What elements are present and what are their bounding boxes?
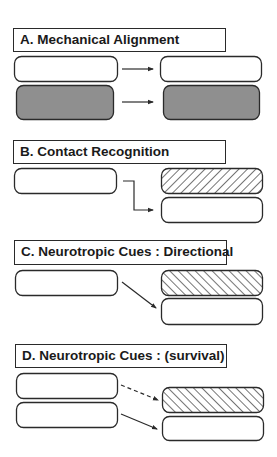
arrow-d-dashed (121, 385, 158, 400)
cell-d-left-top (17, 374, 118, 399)
cell-d-left-bottom (17, 403, 118, 428)
section-a (15, 57, 262, 120)
section-c (16, 271, 263, 325)
cell-a-right-white (161, 57, 262, 82)
cell-b-right-white (162, 198, 263, 223)
section-d (17, 374, 264, 441)
cell-c-left (16, 271, 118, 296)
cell-c-right-hatched (162, 271, 263, 296)
cell-d-right-white (163, 417, 264, 441)
cell-d-right-hatched (163, 388, 264, 413)
section-b (15, 169, 263, 223)
cell-b-left (15, 169, 117, 194)
cell-a-left-gray (17, 86, 114, 120)
cell-c-right-white (162, 299, 263, 325)
arrow-d-solid (121, 414, 157, 429)
cell-a-right-gray (164, 86, 260, 120)
cell-b-right-hatched (162, 169, 263, 194)
cell-a-left-white (15, 57, 118, 82)
arrow-c-diagonal (122, 282, 156, 308)
arrow-b-elbow (123, 181, 153, 210)
